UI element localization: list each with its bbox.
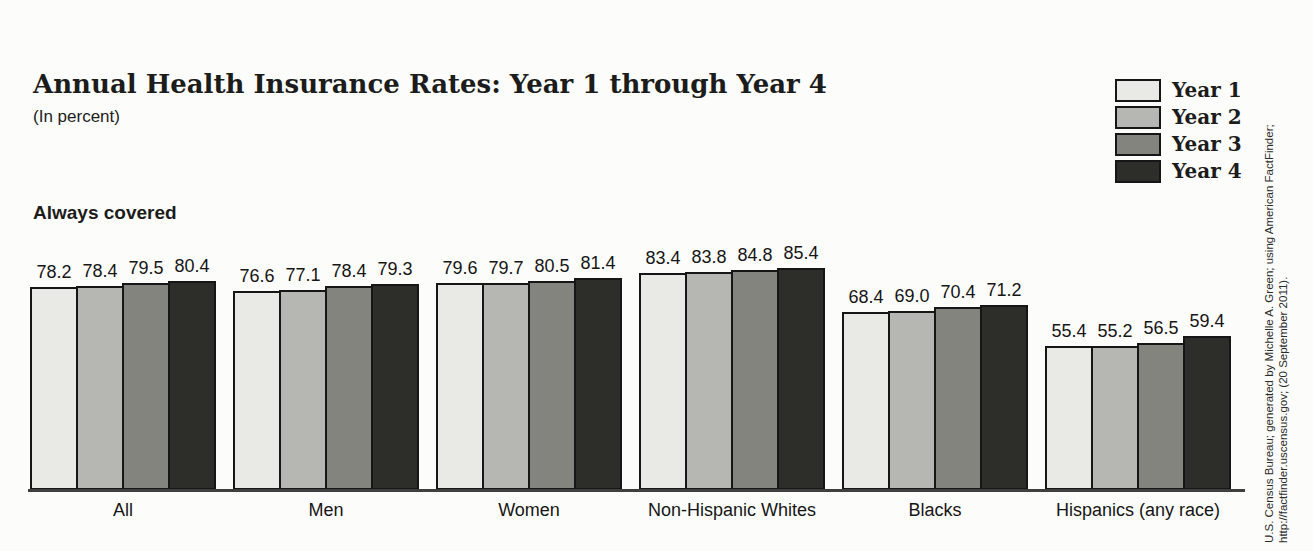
- bar-value-label: 79.3: [377, 259, 412, 280]
- bar-group: 68.469.070.471.2: [842, 305, 1028, 490]
- bar: 80.5: [528, 281, 576, 490]
- bar: 55.2: [1091, 346, 1139, 490]
- bar: 56.5: [1137, 343, 1185, 490]
- bar-value-label: 80.5: [534, 256, 569, 277]
- bar: 84.8: [731, 270, 779, 490]
- bar: 69.0: [888, 311, 936, 490]
- x-axis-line: [28, 489, 1245, 492]
- bar-value-label: 83.8: [691, 247, 726, 268]
- bar: 78.4: [325, 286, 373, 490]
- bar-value-label: 78.4: [82, 261, 117, 282]
- bar-value-label: 77.1: [285, 265, 320, 286]
- category-label: All: [30, 500, 216, 521]
- bar: 79.7: [482, 283, 530, 490]
- bar-group: 79.679.780.581.4: [436, 278, 622, 490]
- bar: 83.4: [639, 273, 687, 490]
- bar-group: 76.677.178.479.3: [233, 284, 419, 490]
- bar-value-label: 79.5: [128, 258, 163, 279]
- bar-group: 55.455.256.559.4: [1045, 336, 1231, 490]
- bar-value-label: 79.6: [442, 258, 477, 279]
- bar: 79.5: [122, 283, 170, 490]
- category-label: Hispanics (any race): [1045, 500, 1231, 521]
- bar-value-label: 69.0: [894, 286, 929, 307]
- category-label: Blacks: [842, 500, 1028, 521]
- bar: 83.8: [685, 272, 733, 490]
- bar-value-label: 71.2: [986, 280, 1021, 301]
- bar: 78.4: [76, 286, 124, 490]
- bar: 70.4: [934, 307, 982, 490]
- bar: 79.6: [436, 283, 484, 490]
- category-label: Men: [233, 500, 419, 521]
- bar-value-label: 80.4: [174, 256, 209, 277]
- bar: 85.4: [777, 268, 825, 490]
- bar-value-label: 84.8: [737, 245, 772, 266]
- bar: 81.4: [574, 278, 622, 490]
- bar: 78.2: [30, 287, 78, 490]
- bar-group: 78.278.479.580.4: [30, 281, 216, 490]
- bar-value-label: 79.7: [488, 258, 523, 279]
- bar: 77.1: [279, 290, 327, 490]
- bar: 76.6: [233, 291, 281, 490]
- bar-value-label: 56.5: [1143, 318, 1178, 339]
- bar: 59.4: [1183, 336, 1231, 490]
- bar-value-label: 59.4: [1189, 311, 1224, 332]
- bar-value-label: 83.4: [645, 248, 680, 269]
- bar-value-label: 81.4: [580, 253, 615, 274]
- bar-value-label: 85.4: [783, 243, 818, 264]
- bar-value-label: 78.4: [331, 261, 366, 282]
- bar: 68.4: [842, 312, 890, 490]
- bar-value-label: 55.4: [1051, 321, 1086, 342]
- bar: 79.3: [371, 284, 419, 490]
- category-labels: AllMenWomenNon-Hispanic WhitesBlacksHisp…: [30, 500, 1231, 521]
- bar-value-label: 55.2: [1097, 321, 1132, 342]
- bar-value-label: 78.2: [36, 262, 71, 283]
- bar-groups: 78.278.479.580.476.677.178.479.379.679.7…: [30, 0, 1250, 490]
- bar-value-label: 68.4: [848, 287, 883, 308]
- source-citation-line2: http://factfinder.uscensus.gov; (20 Sept…: [1276, 81, 1290, 543]
- source-citation: U.S. Census Bureau; generated by Michell…: [1262, 81, 1290, 543]
- category-label: Women: [436, 500, 622, 521]
- bar-value-label: 70.4: [940, 282, 975, 303]
- bar: 55.4: [1045, 346, 1093, 490]
- category-label: Non-Hispanic Whites: [639, 500, 825, 521]
- bar-group: 83.483.884.885.4: [639, 268, 825, 490]
- source-citation-line1: U.S. Census Bureau; generated by Michell…: [1262, 81, 1276, 543]
- bar: 71.2: [980, 305, 1028, 490]
- figure-page: Annual Health Insurance Rates: Year 1 th…: [0, 0, 1313, 551]
- bar-value-label: 76.6: [239, 266, 274, 287]
- bar: 80.4: [168, 281, 216, 490]
